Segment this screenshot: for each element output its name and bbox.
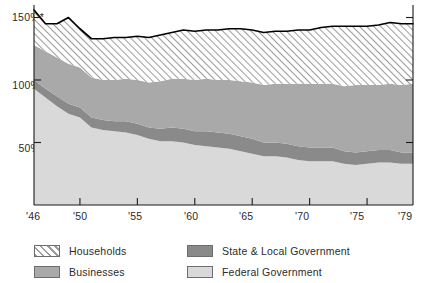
legend-item-federal: Federal Government [187,261,350,282]
stacked-area-chart: 150%* 100% 50% '46 '50 '55 '60 '65 '70 '… [0,0,426,283]
legend-item-state-local: State & Local Government [187,240,350,261]
federal-swatch [187,266,213,278]
legend-label-businesses: Businesses [69,266,125,278]
legend-item-households: Households [34,240,126,261]
state-local-swatch [187,245,213,257]
businesses-swatch [34,266,60,278]
legend-column-left: Households Businesses [34,240,126,282]
legend-item-businesses: Businesses [34,261,126,282]
legend-column-right: State & Local Government Federal Governm… [187,240,350,282]
area-households [34,10,413,86]
legend-label-households: Households [69,245,126,257]
chart-legend: Households Businesses State & Local Gove… [34,240,426,283]
hatch-swatch [34,245,60,257]
legend-label-federal: Federal Government [222,266,322,278]
legend-label-state-local: State & Local Government [222,245,350,257]
